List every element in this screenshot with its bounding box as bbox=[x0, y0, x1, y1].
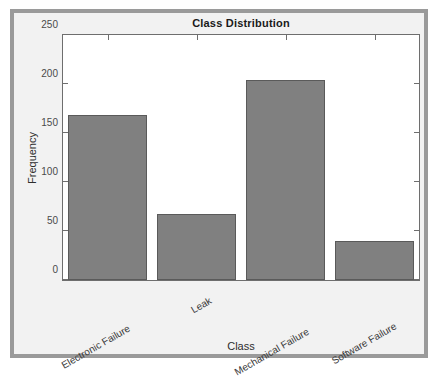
x-tick-label: Leak bbox=[207, 284, 231, 304]
x-tick-mark-top bbox=[286, 35, 287, 40]
x-tick-mark-top bbox=[197, 35, 198, 40]
y-tick-label: 250 bbox=[41, 19, 58, 30]
y-axis-title: Frequency bbox=[25, 34, 39, 281]
bar bbox=[68, 115, 147, 280]
y-tick-mark-right bbox=[414, 279, 419, 280]
x-tick-mark-top bbox=[375, 35, 376, 40]
bar bbox=[246, 80, 325, 280]
x-tick-label: Software Failure bbox=[392, 284, 438, 330]
bar bbox=[335, 241, 414, 280]
y-tick-mark-right bbox=[414, 34, 419, 35]
bar bbox=[157, 214, 236, 280]
x-tick-mark-top bbox=[108, 35, 109, 40]
y-tick-mark bbox=[63, 34, 68, 35]
chart-title: Class Distribution bbox=[62, 17, 420, 29]
x-tick-label: Mechanical Failure bbox=[305, 284, 383, 335]
figure-background: Class Distribution Frequency 05010015020… bbox=[14, 13, 424, 354]
figure-frame: Class Distribution Frequency 05010015020… bbox=[10, 9, 428, 358]
y-tick-label: 50 bbox=[47, 215, 58, 226]
y-tick-mark-right bbox=[414, 132, 419, 133]
y-tick-label: 100 bbox=[41, 166, 58, 177]
y-tick-mark-right bbox=[414, 181, 419, 182]
y-axis-title-text: Frequency bbox=[26, 132, 38, 184]
plot-area: 050100150200250 Electronic FailureLeakMe… bbox=[62, 34, 420, 281]
x-tick-label: Electronic Failure bbox=[126, 284, 198, 332]
y-tick-label: 150 bbox=[41, 117, 58, 128]
y-tick-mark-right bbox=[414, 83, 419, 84]
y-tick-label: 200 bbox=[41, 68, 58, 79]
x-tick-label-text: Leak bbox=[189, 295, 213, 315]
x-axis-title: Class bbox=[62, 340, 420, 352]
y-tick-mark-right bbox=[414, 230, 419, 231]
y-tick-label: 0 bbox=[52, 264, 58, 275]
y-tick-mark bbox=[63, 83, 68, 84]
